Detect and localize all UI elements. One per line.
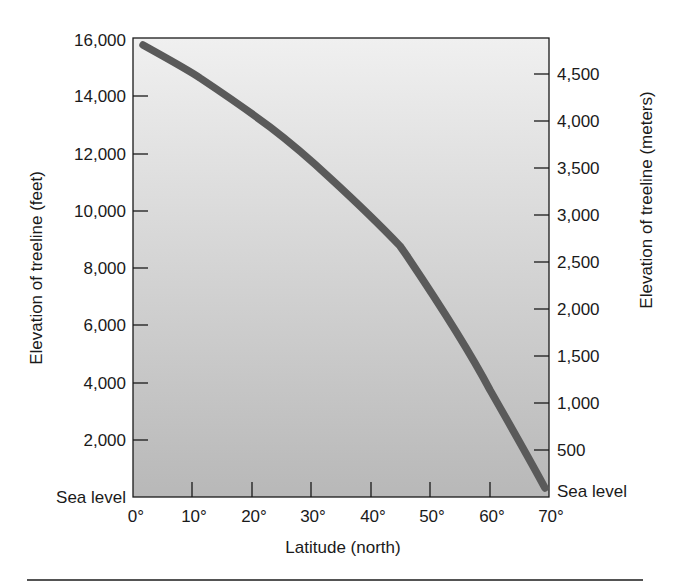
y-left-label: Sea level <box>56 488 126 507</box>
y-left-label: 8,000 <box>83 259 126 278</box>
y-left-label: 4,000 <box>83 374 126 393</box>
y-right-label: 2,000 <box>557 300 600 319</box>
x-label: 10° <box>181 507 207 526</box>
x-axis-title: Latitude (north) <box>285 538 400 557</box>
y-right-label: 4,000 <box>557 112 600 131</box>
x-label: 40° <box>360 507 386 526</box>
y-right-label: 1,500 <box>557 347 600 366</box>
x-label: 60° <box>479 507 505 526</box>
x-label: 50° <box>419 507 445 526</box>
y-axis-title-left: Elevation of treeline (feet) <box>27 171 46 365</box>
y-right-label: 3,500 <box>557 159 600 178</box>
y-left-label: 2,000 <box>83 431 126 450</box>
y-right-label: 500 <box>557 441 585 460</box>
x-label: 30° <box>300 507 326 526</box>
y-right-label: 4,500 <box>557 65 600 84</box>
x-labels: 0° 10° 20° 30° 40° 50° 60° 70° <box>128 507 564 526</box>
y-left-label: 12,000 <box>74 145 126 164</box>
y-left-label: 16,000 <box>74 31 126 50</box>
plot-area <box>133 38 549 497</box>
y-right-label: 1,000 <box>557 394 600 413</box>
y-left-label: 14,000 <box>74 87 126 106</box>
y-right-label: 3,000 <box>557 206 600 225</box>
left-y-labels: Sea level 2,000 4,000 6,000 8,000 10,000… <box>56 31 126 507</box>
y-left-label: 10,000 <box>74 202 126 221</box>
y-right-label: 2,500 <box>557 253 600 272</box>
y-left-label: 6,000 <box>83 316 126 335</box>
right-y-labels: Sea level 500 1,000 1,500 2,000 2,500 3,… <box>557 65 627 501</box>
x-label: 70° <box>538 507 564 526</box>
x-label: 20° <box>241 507 267 526</box>
treeline-chart: Sea level 2,000 4,000 6,000 8,000 10,000… <box>0 0 677 586</box>
y-right-label: Sea level <box>557 482 627 501</box>
y-axis-title-right: Elevation of treeline (meters) <box>637 91 656 308</box>
x-label: 0° <box>128 507 144 526</box>
